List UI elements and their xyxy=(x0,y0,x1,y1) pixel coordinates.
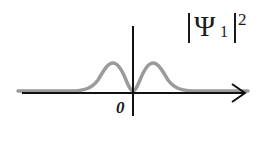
psi-squared-label: Ψ 1 2 xyxy=(189,10,247,43)
origin-label: 0 xyxy=(116,98,125,117)
psi-superscript: 2 xyxy=(238,10,247,29)
psi-symbol: Ψ xyxy=(194,10,216,42)
probability-density-diagram: 0 Ψ 1 2 xyxy=(0,0,269,143)
psi-subscript: 1 xyxy=(220,23,228,40)
